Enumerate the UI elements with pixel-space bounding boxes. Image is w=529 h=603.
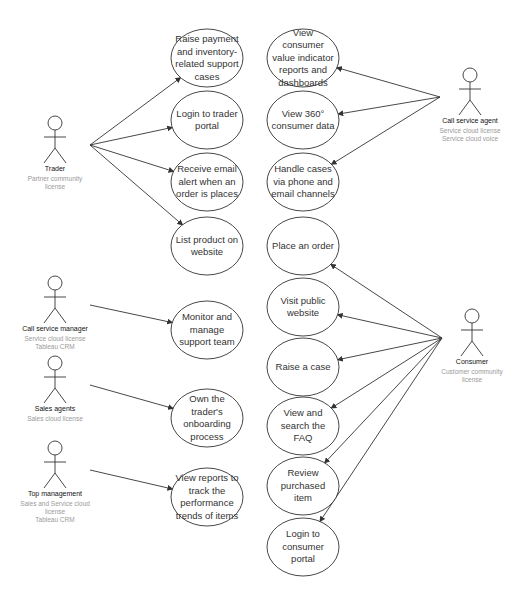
association-line [331, 264, 442, 338]
actor-name: Trader [5, 165, 105, 172]
association-line [325, 338, 442, 463]
use-case-label: Own the trader's onboarding process [175, 389, 239, 447]
actor-call-service-agent-icon [459, 68, 481, 115]
actor-license: Partner communitylicense [5, 175, 105, 191]
actor-license: Service cloud licenseTableau CRM [5, 335, 105, 351]
use-case-label: View reports to track the performance tr… [175, 468, 239, 526]
use-case-label: Handle cases via phone and email channel… [271, 153, 335, 211]
actor-sales-agents-icon [44, 356, 66, 403]
use-case-label: Receive email alert when an order is pla… [175, 153, 239, 211]
association-line [338, 97, 440, 114]
use-case-label: View 360° consumer data [271, 91, 335, 149]
use-case-label: View consumer value indicator reports an… [271, 29, 335, 87]
use-case-label: Monitor and manage support team [175, 301, 239, 359]
actor-call-service-manager-icon [44, 276, 66, 323]
actor-name: Top management [5, 490, 105, 497]
use-case-label: Visit public website [271, 278, 335, 336]
association-line [337, 68, 440, 97]
actor-license: Sales cloud license [5, 415, 105, 423]
actor-name: Call service manager [5, 325, 105, 332]
actor-top-management-icon [44, 441, 66, 488]
use-case-label: Place an order [271, 217, 335, 275]
actor-trader-icon [44, 116, 66, 163]
use-case-label: Login to trader portal [175, 91, 239, 149]
association-line [338, 315, 442, 338]
use-case-label: Review purchased item [271, 457, 335, 515]
actor-license: Sales and Service cloudlicenseTableau CR… [5, 500, 105, 524]
actor-figures [44, 68, 483, 488]
use-case-label: List product on website [175, 217, 239, 275]
use-case-label: Raise a case [271, 338, 335, 396]
use-case-label: View and search the FAQ [271, 397, 335, 455]
actor-consumer-icon [461, 309, 483, 356]
actor-name: Call service agent [420, 117, 520, 124]
association-line [338, 338, 442, 360]
association-line [90, 470, 172, 489]
association-line [90, 305, 172, 323]
use-case-label: Raise payment and inventory-related supp… [175, 29, 239, 87]
association-lines [90, 68, 442, 522]
use-case-label: Login to consumer portal [271, 518, 335, 576]
actor-name: Sales agents [5, 405, 105, 412]
actor-license: Customer communitylicense [422, 368, 522, 384]
actor-license: Service cloud licenseService cloud voice [420, 127, 520, 143]
actor-name: Consumer [422, 358, 522, 365]
